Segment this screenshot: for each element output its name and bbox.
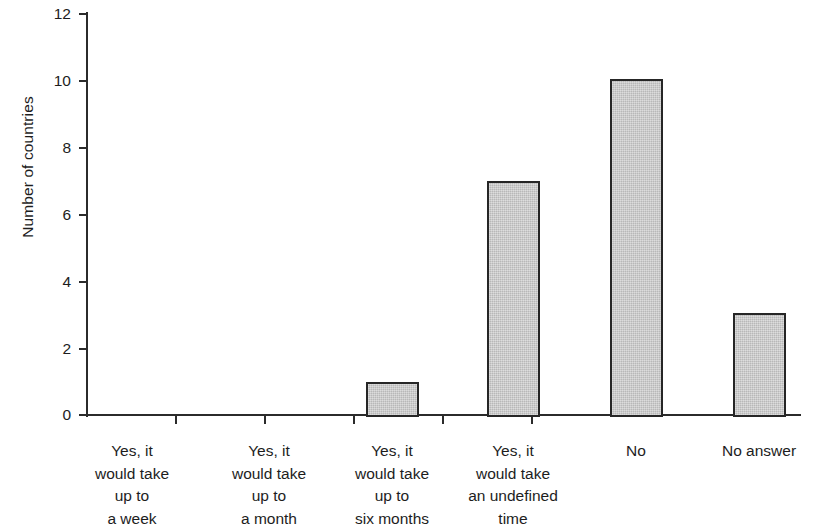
x-axis-label-line: up to	[62, 485, 202, 508]
bar-chart-figure: Number of countries 12 10 8 6 4 2 0 Yes,…	[0, 0, 815, 531]
x-axis-label-line: Yes, it	[322, 440, 462, 463]
y-axis-tick-2	[79, 348, 87, 350]
x-axis-label-yes-undefined-time: Yes, it would take an undefined time	[443, 440, 583, 530]
x-axis-label-line: would take	[443, 463, 583, 486]
x-axis-tick-3	[353, 416, 355, 424]
x-axis-label-line: Yes, it	[62, 440, 202, 463]
y-axis-tick-label-10: 10	[9, 73, 71, 89]
y-axis-tick-label-2: 2	[9, 341, 71, 357]
x-axis-label-yes-up-to-a-week: Yes, it would take up to a week	[62, 440, 202, 530]
x-axis-tick-1	[175, 416, 177, 424]
y-axis-tick-label-8: 8	[9, 140, 71, 156]
x-axis-label-line: Yes, it	[443, 440, 583, 463]
y-axis-tick-10	[79, 80, 87, 82]
x-axis-label-line: time	[443, 508, 583, 531]
bar-yes-up-to-six-months[interactable]	[366, 382, 419, 417]
x-axis-label-line: No	[566, 440, 706, 463]
y-axis-tick-6	[79, 214, 87, 216]
bar-no[interactable]	[610, 79, 663, 417]
x-axis-label-line: an undefined	[443, 485, 583, 508]
y-axis-tick-8	[79, 147, 87, 149]
x-axis-label-line: would take	[199, 463, 339, 486]
x-axis-label-line: would take	[322, 463, 462, 486]
x-axis-label-line: up to	[199, 485, 339, 508]
x-axis-label-line: up to	[322, 485, 462, 508]
x-axis-tick-4	[442, 416, 444, 424]
x-axis-label-line: would take	[62, 463, 202, 486]
x-axis-label-yes-up-to-six-months: Yes, it would take up to six months	[322, 440, 462, 530]
x-axis-tick-2	[264, 416, 266, 424]
x-axis-label-line: six months	[322, 508, 462, 531]
bar-yes-undefined-time[interactable]	[487, 181, 540, 417]
y-axis-tick-12	[79, 13, 87, 15]
x-axis-label-no-answer: No answer	[689, 440, 815, 463]
y-axis-tick-label-12: 12	[9, 6, 71, 22]
y-axis-tick-label-0: 0	[9, 407, 71, 423]
bar-no-answer[interactable]	[733, 313, 786, 417]
y-axis-tick-label-6: 6	[9, 207, 71, 223]
y-axis-tick-label-4: 4	[9, 274, 71, 290]
y-axis-tick-0	[79, 414, 87, 416]
x-axis-label-line: a week	[62, 508, 202, 531]
x-axis-label-line: No answer	[689, 440, 815, 463]
x-axis-tick-5	[531, 416, 533, 424]
x-axis-label-line: a month	[199, 508, 339, 531]
y-axis-tick-4	[79, 281, 87, 283]
x-axis-label-line: Yes, it	[199, 440, 339, 463]
x-axis-label-yes-up-to-a-month: Yes, it would take up to a month	[199, 440, 339, 530]
x-axis-label-no: No	[566, 440, 706, 463]
